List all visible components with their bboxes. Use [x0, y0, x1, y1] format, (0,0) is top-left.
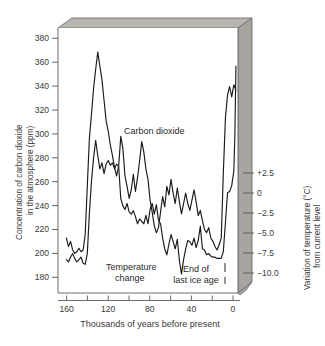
right-axis-tick-labels: +2.5 0 −2.5 −5.0 −7.5 −10.0: [257, 168, 279, 278]
right-tick-minus5: −5.0: [257, 228, 274, 238]
left-tick-360: 360: [35, 57, 50, 67]
right-tick-plus2p5: +2.5: [257, 168, 274, 178]
x-axis-ticks: [67, 296, 233, 301]
left-tick-280: 280: [35, 153, 50, 163]
chart-svg: 380 360 340 320 300 280 260 240 220 200 …: [0, 0, 325, 346]
left-tick-340: 340: [35, 81, 50, 91]
left-tick-380: 380: [35, 33, 50, 43]
annotation-ice-age-line1: End of: [183, 264, 210, 274]
left-tick-320: 320: [35, 105, 50, 115]
annotation-temperature-line2: change: [115, 273, 145, 283]
annotation-ice-age-line2: last ice age: [173, 275, 219, 285]
right-tick-minus7p5: −7.5: [257, 248, 274, 258]
x-tick-0: 0: [231, 304, 236, 314]
plot-top-slab: [58, 18, 252, 28]
left-tick-240: 240: [35, 201, 50, 211]
right-tick-minus10: −10.0: [257, 268, 279, 278]
left-tick-180: 180: [35, 272, 50, 282]
annotation-temperature-line1: Temperature: [106, 262, 157, 272]
right-axis-title-line2: from current level: [313, 205, 322, 268]
left-tick-200: 200: [35, 248, 50, 258]
left-axis-title-line2: in the atmosphere (ppm): [26, 126, 35, 215]
right-axis-title-line1: Variation of temperature (°C): [303, 186, 312, 290]
x-tick-120: 120: [101, 304, 116, 314]
left-axis-ticks: [52, 38, 58, 277]
x-axis-tick-labels: 160 120 80 40 0: [59, 304, 235, 314]
plot-right-slab: [238, 18, 252, 293]
left-axis-tick-labels: 380 360 340 320 300 280 260 240 220 200 …: [35, 33, 50, 282]
x-tick-40: 40: [187, 304, 197, 314]
right-tick-minus2p5: −2.5: [257, 208, 274, 218]
left-tick-260: 260: [35, 177, 50, 187]
annotation-carbon-dioxide: Carbon dioxide: [124, 126, 185, 136]
right-tick-0: 0: [257, 188, 262, 198]
left-tick-220: 220: [35, 224, 50, 234]
chart-figure: 380 360 340 320 300 280 260 240 220 200 …: [0, 0, 325, 346]
x-tick-160: 160: [59, 304, 74, 314]
left-tick-300: 300: [35, 129, 50, 139]
left-axis-title-line1: Concentration of carbon dioxide: [15, 124, 24, 240]
plot-area: [58, 28, 238, 293]
x-tick-80: 80: [145, 304, 155, 314]
x-axis-caption: Thousands of years before present: [80, 319, 220, 329]
